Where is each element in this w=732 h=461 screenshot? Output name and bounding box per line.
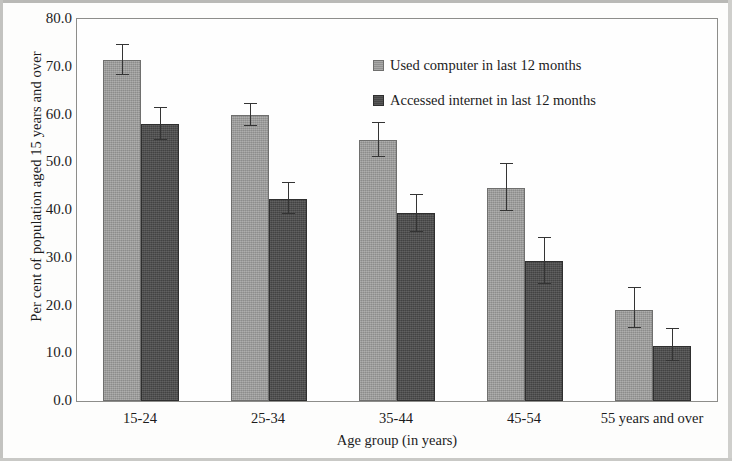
bar xyxy=(231,115,269,401)
y-axis-tick-label: 80.0 xyxy=(20,11,72,26)
legend-item-used-computer: Used computer in last 12 months xyxy=(373,57,596,74)
error-bar-cap xyxy=(500,163,513,164)
error-bar-line xyxy=(544,238,545,284)
x-axis-title: Age group (in years) xyxy=(76,432,718,449)
error-bar-cap xyxy=(154,107,167,108)
error-bar-line xyxy=(506,164,507,211)
error-bar-cap xyxy=(410,231,423,232)
x-axis-tick-label: 35-44 xyxy=(332,410,460,427)
y-axis-tick-label: 10.0 xyxy=(20,345,72,360)
error-bar-cap xyxy=(244,125,257,126)
error-bar-cap xyxy=(282,182,295,183)
error-bar-cap xyxy=(282,213,295,214)
error-bar-cap xyxy=(500,210,513,211)
y-axis-tick-labels: 0.010.020.030.040.050.060.070.080.0 xyxy=(16,0,72,461)
bar xyxy=(487,188,525,401)
error-bar-line xyxy=(416,195,417,232)
legend-swatch-icon-used-computer xyxy=(373,60,384,71)
error-bar-cap xyxy=(628,287,641,288)
error-bar-cap xyxy=(538,283,551,284)
error-bar-line xyxy=(122,45,123,75)
chart-figure: Per cent of population aged 15 years and… xyxy=(0,0,732,461)
bar xyxy=(103,60,141,401)
error-bar-line xyxy=(160,108,161,140)
error-bar-cap xyxy=(628,327,641,328)
bar xyxy=(269,199,307,401)
page-border-left xyxy=(0,0,3,461)
legend-label-used-computer: Used computer in last 12 months xyxy=(390,57,581,74)
bar xyxy=(397,213,435,401)
x-axis-tick-label: 15-24 xyxy=(76,410,204,427)
error-bar-cap xyxy=(410,194,423,195)
x-axis-tick-label: 45-54 xyxy=(460,410,588,427)
error-bar-line xyxy=(288,183,289,214)
legend-item-accessed-internet: Accessed internet in last 12 months xyxy=(373,92,596,109)
y-axis-tick-label: 30.0 xyxy=(20,250,72,265)
y-axis-tick-label: 20.0 xyxy=(20,298,72,313)
error-bar-cap xyxy=(244,103,257,104)
legend-swatch-icon-accessed-internet xyxy=(373,95,384,106)
error-bar-cap xyxy=(154,139,167,140)
error-bar-cap xyxy=(538,237,551,238)
error-bar-cap xyxy=(116,74,129,75)
y-axis-tick-label: 70.0 xyxy=(20,59,72,74)
y-axis-tick-label: 60.0 xyxy=(20,107,72,122)
error-bar-cap xyxy=(372,156,385,157)
error-bar-cap xyxy=(666,360,679,361)
error-bar-line xyxy=(378,123,379,157)
legend: Used computer in last 12 months Accessed… xyxy=(373,57,596,127)
plot-area: Used computer in last 12 months Accessed… xyxy=(76,18,718,402)
page-border-right xyxy=(728,0,732,461)
error-bar-line xyxy=(634,288,635,329)
error-bar-line xyxy=(250,104,251,126)
error-bar-line xyxy=(672,329,673,361)
y-axis-tick-label: 40.0 xyxy=(20,202,72,217)
y-axis-tick-label: 50.0 xyxy=(20,154,72,169)
x-axis-tick-label: 25-34 xyxy=(204,410,332,427)
error-bar-cap xyxy=(116,44,129,45)
y-axis-tick-label: 0.0 xyxy=(20,393,72,408)
x-axis-tick-label: 55 years and over xyxy=(588,410,716,427)
error-bar-cap xyxy=(666,328,679,329)
bar xyxy=(359,140,397,401)
legend-label-accessed-internet: Accessed internet in last 12 months xyxy=(390,92,596,109)
x-axis-tick-labels: 15-2425-3435-4445-5455 years and over xyxy=(76,410,718,430)
bar xyxy=(141,124,179,401)
page-border-top xyxy=(0,0,732,3)
